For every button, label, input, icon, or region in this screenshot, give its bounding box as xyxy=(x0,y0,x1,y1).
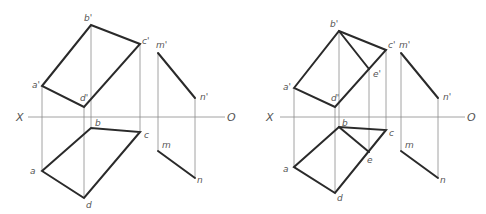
label-n-prime: n' xyxy=(443,92,451,102)
line-mn-top xyxy=(401,151,438,178)
label-n: n xyxy=(440,175,446,185)
line-be-top xyxy=(339,127,369,152)
line-mn-top xyxy=(158,151,195,178)
label-b: b xyxy=(95,118,101,128)
right-figure: X O b' c' e' a' d' b c e a d m' n' m n xyxy=(265,19,476,203)
label-d: d xyxy=(337,193,343,203)
label-c: c xyxy=(389,128,394,138)
label-d: d xyxy=(86,200,92,210)
label-e-prime: e' xyxy=(373,69,381,79)
label-m-prime: m' xyxy=(156,40,167,50)
plane-top-view xyxy=(42,128,140,198)
axis-label-o: O xyxy=(467,111,476,124)
label-c: c xyxy=(144,130,149,140)
label-d-prime: d' xyxy=(80,93,88,103)
label-m: m xyxy=(405,140,414,150)
label-d-prime: d' xyxy=(331,93,339,103)
left-figure: X O b' c' a' d' b c a d m' n' m n xyxy=(15,13,236,210)
label-b: b xyxy=(342,118,348,128)
label-a-prime: a' xyxy=(32,80,40,90)
label-m: m xyxy=(162,140,171,150)
label-a: a xyxy=(30,166,36,176)
label-c-prime: c' xyxy=(388,40,395,50)
line-mn-front xyxy=(158,53,195,98)
label-a-prime: a' xyxy=(283,82,291,92)
label-c-prime: c' xyxy=(142,36,149,46)
label-n: n xyxy=(197,175,203,185)
axis-label-x: X xyxy=(265,111,274,124)
label-a: a xyxy=(283,164,289,174)
axis-label-o: O xyxy=(227,111,236,124)
label-e: e xyxy=(367,155,373,165)
line-mn-front xyxy=(401,53,438,98)
label-m-prime: m' xyxy=(399,40,410,50)
projection-diagram: X O b' c' a' d' b c a d m' n' m n X O xyxy=(0,0,486,214)
label-b-prime: b' xyxy=(330,19,338,29)
axis-label-x: X xyxy=(15,111,24,124)
label-b-prime: b' xyxy=(84,13,92,23)
label-n-prime: n' xyxy=(200,92,208,102)
